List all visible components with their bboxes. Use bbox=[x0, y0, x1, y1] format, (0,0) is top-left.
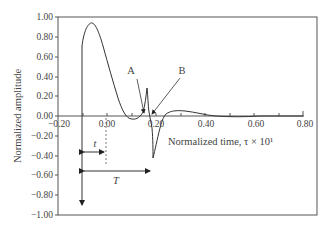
svg-text:0.40: 0.40 bbox=[36, 72, 53, 82]
svg-text:0.80: 0.80 bbox=[36, 32, 53, 42]
svg-text:0.60: 0.60 bbox=[248, 119, 265, 129]
annotation-b-label: B bbox=[178, 65, 185, 76]
annotation-a-label: A bbox=[127, 65, 135, 76]
svg-text:1.00: 1.00 bbox=[36, 12, 53, 22]
svg-text:−0.20: −0.20 bbox=[48, 119, 70, 129]
annotation-b-arrow bbox=[152, 78, 180, 114]
svg-text:−0.40: −0.40 bbox=[31, 151, 53, 161]
y-tick-labels: 1.00 0.80 0.60 0.40 0.20 0.00 −0.20 −0.4… bbox=[31, 12, 53, 220]
svg-text:−1.00: −1.00 bbox=[31, 210, 53, 220]
x-tick-labels: −0.20 0.00 0.20 0.40 0.60 0.80 bbox=[48, 119, 314, 129]
svg-text:−0.80: −0.80 bbox=[31, 190, 53, 200]
y-axis-label: Normalized amplitude bbox=[12, 69, 23, 164]
chart-canvas: 1.00 0.80 0.60 0.40 0.20 0.00 −0.20 −0.4… bbox=[0, 0, 329, 230]
svg-text:−0.20: −0.20 bbox=[31, 131, 53, 141]
svg-text:0.40: 0.40 bbox=[198, 119, 215, 129]
svg-text:0.60: 0.60 bbox=[36, 52, 53, 62]
interval-t-label: t bbox=[94, 138, 98, 149]
annotation-a-arrow bbox=[137, 79, 144, 113]
svg-text:0.00: 0.00 bbox=[99, 119, 116, 129]
svg-text:−0.60: −0.60 bbox=[31, 170, 53, 180]
interval-T-label: T bbox=[113, 175, 120, 186]
svg-text:0.80: 0.80 bbox=[297, 119, 314, 129]
svg-text:0.20: 0.20 bbox=[36, 91, 53, 101]
x-axis-label: Normalized time, τ × 10¹ bbox=[168, 136, 273, 147]
